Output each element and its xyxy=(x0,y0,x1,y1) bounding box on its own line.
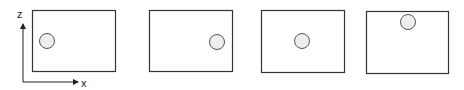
diagram-canvas: z x xyxy=(0,0,464,90)
panel-3 xyxy=(262,11,345,73)
z-axis-label: z xyxy=(17,8,23,20)
circle-marker xyxy=(210,35,225,50)
panel-2 xyxy=(150,11,233,72)
circle-marker xyxy=(295,34,310,49)
circle-marker xyxy=(401,15,416,30)
panel-4 xyxy=(367,12,449,74)
circle-marker xyxy=(40,34,55,49)
panel-1 xyxy=(33,11,116,72)
x-axis-label: x xyxy=(81,77,87,89)
